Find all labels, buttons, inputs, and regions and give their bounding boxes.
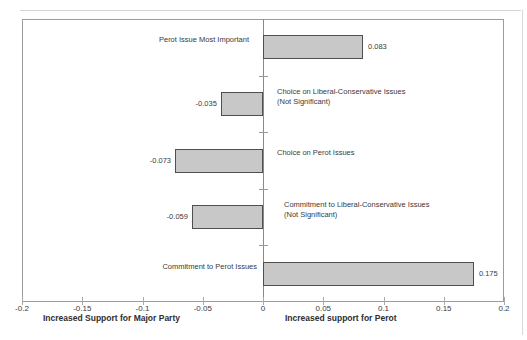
category-label-line: Perot Issue Most Important xyxy=(159,35,249,45)
bar-value-label: -0.059 xyxy=(167,212,188,222)
category-label: Choice on Liberal-Conservative Issues(No… xyxy=(277,87,405,106)
bar xyxy=(221,92,263,116)
scan-artifact-line-top xyxy=(20,10,521,11)
category-axis-tick xyxy=(259,76,268,77)
x-tick-label: -0.05 xyxy=(181,304,225,313)
category-label-line: Commitment to Liberal-Conservative Issue… xyxy=(284,200,429,210)
category-label: Perot Issue Most Important xyxy=(159,35,249,45)
category-label: Commitment to Liberal-Conservative Issue… xyxy=(284,200,429,219)
scan-artifact-line-right xyxy=(522,10,523,335)
x-axis-title-right: Increased support for Perot xyxy=(285,313,396,323)
x-tick-label: -0.15 xyxy=(60,304,104,313)
category-label-line: (Not Significant) xyxy=(284,210,429,220)
bar xyxy=(175,149,263,173)
bar-value-label: -0.073 xyxy=(150,156,171,166)
x-tick-label: 0 xyxy=(241,304,285,313)
x-tick-label: -0.2 xyxy=(0,304,44,313)
bar-value-label: -0.035 xyxy=(196,99,217,109)
bar xyxy=(263,35,363,59)
category-label-line: Choice on Perot Issues xyxy=(277,148,355,158)
x-tick-label: 0.1 xyxy=(362,304,406,313)
category-label: Choice on Perot Issues xyxy=(277,148,355,158)
category-label-line: Choice on Liberal-Conservative Issues xyxy=(277,87,405,97)
x-axis-title-left: Increased Support for Major Party xyxy=(43,313,180,323)
x-tick-label: -0.1 xyxy=(121,304,165,313)
x-tick-label: 0.15 xyxy=(422,304,466,313)
category-label-line: Commitment to Perot Issues xyxy=(162,262,257,272)
x-tick-label: 0.05 xyxy=(301,304,345,313)
bar-value-label: 0.083 xyxy=(368,42,387,52)
scanned-chart-page: 0.083Perot Issue Most Important-0.035Cho… xyxy=(0,0,527,340)
category-axis-tick xyxy=(259,245,268,246)
x-tick-label: 0.2 xyxy=(482,304,526,313)
category-label: Commitment to Perot Issues xyxy=(162,262,257,272)
category-axis-line xyxy=(263,19,264,302)
category-axis-tick xyxy=(259,132,268,133)
category-label-line: (Not Significant) xyxy=(277,97,405,107)
category-axis-tick xyxy=(259,189,268,190)
bar xyxy=(192,205,263,229)
bar xyxy=(263,262,474,286)
bar-value-label: 0.175 xyxy=(479,269,498,279)
